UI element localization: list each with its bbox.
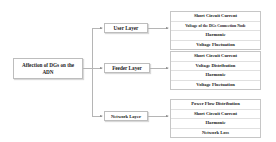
- user-layer-node: User Layer: [104, 23, 148, 33]
- list-item: Harmonic: [171, 119, 260, 129]
- connector-user-to-list: [148, 28, 168, 29]
- feeder-layer-label: Feeder Layer: [112, 65, 142, 71]
- list-item: Voltage of the DGs Connection Node: [171, 22, 260, 32]
- list-item: Short Circuit Current: [171, 12, 260, 22]
- connector-root-horizontal: [83, 68, 92, 69]
- network-layer-node: Network Layer: [104, 111, 148, 121]
- feeder-layer-node: Feeder Layer: [104, 63, 150, 73]
- list-item: Power Flow Distribution: [171, 100, 260, 110]
- list-item: Short Circuit Current: [171, 110, 260, 120]
- list-item: Voltage Fluctuation: [171, 81, 260, 90]
- user-layer-label: User Layer: [114, 25, 139, 31]
- network-layer-label: Network Layer: [111, 114, 141, 119]
- list-item: Voltage Fluctuation: [171, 41, 260, 50]
- root-label: Affection of DGs on the ADN: [16, 62, 80, 75]
- list-item: Voltage Distribution: [171, 62, 260, 72]
- connector-vertical-trunk: [92, 28, 93, 116]
- root-node: Affection of DGs on the ADN: [13, 58, 83, 79]
- list-item: Harmonic: [171, 71, 260, 81]
- list-item: Harmonic: [171, 31, 260, 41]
- arrow-icon: [166, 27, 169, 29]
- arrow-icon: [100, 115, 103, 117]
- arrow-icon: [166, 67, 169, 69]
- arrow-icon: [100, 27, 103, 29]
- arrow-icon: [100, 67, 103, 69]
- user-layer-effects-list: Short Circuit Current Voltage of the DGs…: [170, 11, 261, 50]
- list-item: Network Loss: [171, 129, 260, 138]
- feeder-layer-effects-list: Short Circuit Current Voltage Distributi…: [170, 51, 261, 90]
- connector-network-to-list: [148, 116, 168, 117]
- arrow-icon: [166, 115, 169, 117]
- network-layer-effects-list: Power Flow Distribution Short Circuit Cu…: [170, 99, 261, 138]
- list-item: Short Circuit Current: [171, 52, 260, 62]
